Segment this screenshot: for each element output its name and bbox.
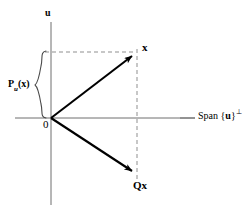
vector-qx-arrow [51, 118, 132, 171]
projection-arg-text: (x) [18, 78, 30, 89]
origin-label: 0 [43, 119, 49, 130]
vector-x-label: x [142, 42, 148, 53]
span-prefix-text: Span { [198, 110, 225, 121]
span-suffix-text: } [231, 110, 236, 121]
projection-label: Pu(x) [8, 79, 30, 92]
projection-diagram: u 0 x Qx Span {u}⊥ Pu(x) [0, 0, 251, 216]
span-label: Span {u}⊥ [198, 110, 242, 121]
perpendicular-icon: ⊥ [236, 108, 242, 116]
axis-label-u: u [45, 8, 51, 18]
projection-brace [35, 51, 46, 118]
vector-x-arrow [51, 56, 132, 118]
projection-subscript-text: u [14, 85, 18, 93]
vector-qx-label: Qx [133, 180, 147, 191]
diagram-canvas [0, 0, 251, 216]
